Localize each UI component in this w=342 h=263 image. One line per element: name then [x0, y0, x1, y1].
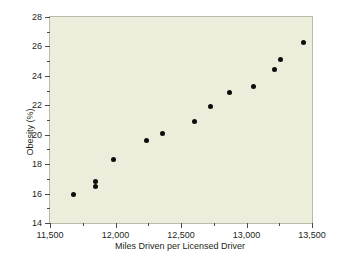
y-axis-tick-label: 14: [32, 219, 42, 228]
y-axis-minor-tick: [47, 120, 50, 121]
data-point: [111, 157, 116, 162]
y-axis-tick: [45, 105, 50, 106]
y-axis-tick-label: 28: [32, 13, 42, 22]
data-point: [272, 67, 277, 72]
x-axis-tick-label: 11,500: [37, 231, 64, 240]
x-axis-minor-tick: [148, 223, 149, 226]
data-point: [144, 138, 149, 143]
y-axis-tick: [45, 17, 50, 18]
data-point: [192, 119, 197, 124]
data-point: [160, 131, 165, 136]
x-axis-tick: [247, 223, 248, 228]
x-axis-tick-label: 12,500: [167, 231, 195, 240]
y-axis-title: Obesity (%): [25, 108, 35, 155]
x-axis-tick: [181, 223, 182, 228]
y-axis-tick: [45, 135, 50, 136]
y-axis-tick-label: 24: [32, 71, 42, 80]
x-axis-minor-tick: [279, 223, 280, 226]
y-axis-tick: [45, 76, 50, 77]
x-axis-tick: [312, 223, 313, 228]
y-axis-minor-tick: [47, 91, 50, 92]
plot-area: 141618202224262811,50012,00012,50013,000…: [49, 16, 313, 224]
y-axis-minor-tick: [47, 149, 50, 150]
y-axis-tick: [45, 194, 50, 195]
y-axis-minor-tick: [47, 32, 50, 33]
x-axis-tick-label: 12,000: [102, 231, 130, 240]
x-axis-minor-tick: [214, 223, 215, 226]
y-axis-tick-label: 18: [32, 160, 42, 169]
data-point: [71, 192, 76, 197]
x-axis-tick-label: 13,000: [233, 231, 261, 240]
x-axis-title: Miles Driven per Licensed Driver: [49, 241, 311, 251]
data-point: [93, 184, 98, 189]
y-axis-tick: [45, 46, 50, 47]
y-axis-minor-tick: [47, 208, 50, 209]
x-axis-minor-tick: [83, 223, 84, 226]
data-point: [278, 57, 283, 62]
scatter-chart-figure: 141618202224262811,50012,00012,50013,000…: [0, 0, 342, 263]
data-point: [227, 90, 232, 95]
y-axis-minor-tick: [47, 61, 50, 62]
y-axis-tick-label: 26: [32, 42, 42, 51]
data-point: [251, 84, 256, 89]
y-axis-tick: [45, 164, 50, 165]
x-axis-tick-label: 13,500: [298, 231, 326, 240]
data-point: [208, 104, 213, 109]
x-axis-tick: [50, 223, 51, 228]
data-point: [93, 179, 98, 184]
y-axis-minor-tick: [47, 179, 50, 180]
y-axis-tick-label: 16: [32, 189, 42, 198]
x-axis-tick: [116, 223, 117, 228]
data-point: [301, 40, 306, 45]
plot-inner: 141618202224262811,50012,00012,50013,000…: [50, 17, 312, 223]
